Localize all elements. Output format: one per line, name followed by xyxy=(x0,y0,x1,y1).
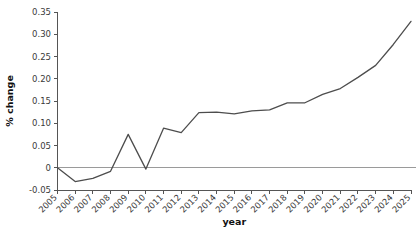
y-tick-label: 0.25 xyxy=(32,52,51,62)
y-tick-label: 0.35 xyxy=(32,7,51,17)
y-tick-label: 0.05 xyxy=(32,141,51,151)
y-tick-label: 0.30 xyxy=(32,29,51,39)
y-tick-label: -0.05 xyxy=(29,185,51,195)
y-tick-label: 0 xyxy=(46,163,51,173)
x-axis-title: year xyxy=(222,216,246,227)
y-tick-label: 0.20 xyxy=(32,74,51,84)
chart-canvas: 0.350.300.250.200.150.100.050-0.05 20052… xyxy=(0,0,416,237)
line-chart: 0.350.300.250.200.150.100.050-0.05 20052… xyxy=(0,0,416,237)
y-tick-label: 0.15 xyxy=(32,96,51,106)
x-axis-tick-marks xyxy=(58,190,412,194)
y-axis-title: % change xyxy=(4,75,15,127)
y-tick-label: 0.10 xyxy=(32,118,51,128)
